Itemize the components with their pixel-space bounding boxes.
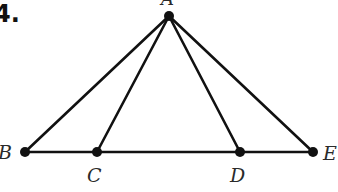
point-E	[308, 147, 318, 157]
problem-number: 4.	[0, 0, 20, 28]
label-A: A	[159, 0, 174, 9]
label-B: B	[0, 141, 12, 163]
segment-AD	[169, 16, 240, 152]
segment-AC	[97, 16, 169, 152]
points	[20, 11, 318, 157]
point-C	[92, 147, 102, 157]
point-B	[20, 147, 30, 157]
point-D	[235, 147, 245, 157]
geometry-figure: 4. A B C D E	[0, 0, 338, 192]
label-C: C	[87, 164, 102, 186]
segment-AB	[25, 16, 169, 152]
segment-AE	[169, 16, 313, 152]
label-E: E	[322, 142, 337, 164]
segments	[25, 16, 313, 152]
label-D: D	[229, 164, 245, 186]
point-A	[164, 11, 174, 21]
